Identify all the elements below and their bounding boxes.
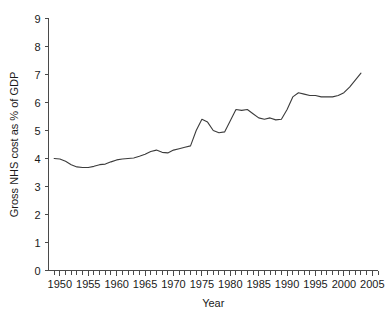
x-tick-label: 1950 bbox=[48, 278, 72, 290]
y-tick-label: 7 bbox=[34, 69, 40, 81]
x-tick-label: 1970 bbox=[161, 278, 185, 290]
x-tick-label: 2005 bbox=[360, 278, 384, 290]
y-tick-label: 9 bbox=[34, 13, 40, 25]
x-tick-label: 1990 bbox=[275, 278, 299, 290]
line-chart-plot: 0123456789 19501955196019651970197519801… bbox=[0, 0, 392, 315]
y-axis-title: Gross NHS cost as % of GDP bbox=[8, 72, 20, 217]
y-tick-label: 3 bbox=[34, 181, 40, 193]
x-tick-label: 1975 bbox=[190, 278, 214, 290]
x-tick-label: 2000 bbox=[332, 278, 356, 290]
x-tick-label: 1965 bbox=[133, 278, 157, 290]
y-tick-label: 0 bbox=[34, 265, 40, 277]
x-tick-label: 1995 bbox=[303, 278, 327, 290]
y-tick-label: 8 bbox=[34, 41, 40, 53]
x-tick-label: 1980 bbox=[218, 278, 242, 290]
x-axis-title: Year bbox=[202, 297, 225, 309]
data-line-series bbox=[54, 73, 361, 167]
x-tick-label: 1955 bbox=[76, 278, 100, 290]
y-tick-label: 2 bbox=[34, 209, 40, 221]
y-tick-label: 5 bbox=[34, 125, 40, 137]
y-tick-label: 6 bbox=[34, 97, 40, 109]
data-series-group bbox=[54, 73, 361, 167]
x-tick-label: 1960 bbox=[104, 278, 128, 290]
x-tick-label: 1985 bbox=[246, 278, 270, 290]
y-tick-label: 1 bbox=[34, 237, 40, 249]
y-tick-label: 4 bbox=[34, 153, 40, 165]
x-axis: 1950195519601965197019751980198519901995… bbox=[48, 271, 385, 290]
y-axis: 0123456789 bbox=[34, 13, 48, 277]
chart-figure: 0123456789 19501955196019651970197519801… bbox=[0, 0, 392, 315]
